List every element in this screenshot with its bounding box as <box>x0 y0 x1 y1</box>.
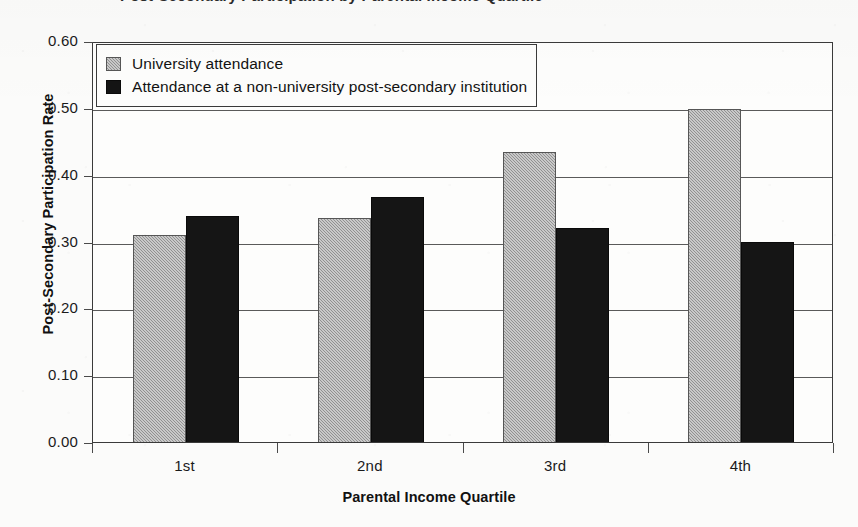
legend-swatch-nonuniversity-icon <box>106 80 121 94</box>
legend-item-nonuniversity: Attendance at a non-university post-seco… <box>106 75 527 98</box>
x-axis-tick-label-3rd: 3rd <box>495 457 615 474</box>
y-axis-tick-mark <box>84 42 93 43</box>
x-axis-tick-mark <box>648 443 649 453</box>
bar-nonuniversity-1st <box>186 216 239 442</box>
bar-university-3rd <box>503 152 556 442</box>
bar-nonuniversity-3rd <box>556 228 609 442</box>
y-axis-tick-mark <box>84 176 93 177</box>
y-axis-tick-label: 0.20 <box>22 299 78 316</box>
y-axis-tick-mark <box>84 243 93 244</box>
x-axis-tick-mark <box>277 443 278 453</box>
y-axis-tick-label: 0.10 <box>22 366 78 383</box>
legend-label-nonuniversity: Attendance at a non-university post-seco… <box>132 78 527 96</box>
y-axis-title: Post-Secondary Participation Rate <box>40 4 56 424</box>
x-axis-tick-label-4th: 4th <box>680 457 800 474</box>
bar-university-1st <box>133 235 186 442</box>
bar-nonuniversity-4th <box>741 242 794 443</box>
y-axis-tick-mark <box>84 309 93 310</box>
legend-item-university: University attendance <box>106 52 527 75</box>
y-axis-tick-label: 0.40 <box>22 166 78 183</box>
bar-university-4th <box>688 109 741 442</box>
y-axis-tick-mark <box>84 109 93 110</box>
x-axis-title: Parental Income Quartile <box>0 489 858 505</box>
legend-label-university: University attendance <box>132 55 283 73</box>
figure-title: Post-Secondary Participation by Parental… <box>0 0 858 9</box>
figure-title-text: Post-Secondary Participation by Parental… <box>120 0 543 4</box>
chart-legend: University attendance Attendance at a no… <box>96 44 537 107</box>
y-axis-tick-label: 0.60 <box>22 32 78 49</box>
x-axis-tick-label-2nd: 2nd <box>310 457 430 474</box>
bar-university-2nd <box>318 218 371 442</box>
legend-swatch-university-icon <box>106 57 121 71</box>
x-axis-tick-mark <box>833 443 834 453</box>
x-axis-tick-label-1st: 1st <box>125 457 245 474</box>
y-axis-tick-label: 0.50 <box>22 99 78 116</box>
x-axis-tick-mark <box>92 443 93 453</box>
bar-nonuniversity-2nd <box>371 197 424 442</box>
y-axis-tick-mark <box>84 376 93 377</box>
y-axis-tick-label: 0.30 <box>22 233 78 250</box>
x-axis-tick-mark <box>463 443 464 453</box>
y-axis-tick-label: 0.00 <box>22 433 78 450</box>
